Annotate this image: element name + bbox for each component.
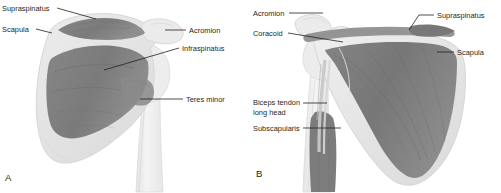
label-supraspinatus-b: Supraspinatus <box>437 11 485 20</box>
panel-a-posterior-view: Supraspinatus Scapula Acromion Infraspin… <box>0 0 250 193</box>
label-supraspinatus-a: Supraspinatus <box>2 4 50 13</box>
label-subscapularis-b: Subscapularis <box>253 124 300 133</box>
label-biceps-tendon-b-line2: long head <box>253 108 286 117</box>
leader-scapula-a <box>36 29 52 33</box>
panel-letter-b: B <box>256 168 262 179</box>
panel-b-illustration <box>251 0 501 193</box>
label-infraspinatus-a: Infraspinatus <box>182 44 225 53</box>
anatomy-figure: Supraspinatus Scapula Acromion Infraspin… <box>0 0 501 193</box>
panel-letter-a: A <box>5 172 11 183</box>
panel-b-anterior-view: Acromion Coracoid Supraspinatus Scapula … <box>251 0 501 193</box>
label-scapula-a: Scapula <box>2 25 29 34</box>
label-teres-minor-a: Teres minor <box>186 95 225 104</box>
acromion-bone-a <box>142 19 184 44</box>
label-acromion-b: Acromion <box>253 9 284 18</box>
label-acromion-a: Acromion <box>189 26 220 35</box>
label-scapula-b: Scapula <box>457 48 484 57</box>
label-coracoid-b: Coracoid <box>253 29 283 38</box>
label-biceps-tendon-b-line1: Biceps tendon <box>253 98 300 107</box>
